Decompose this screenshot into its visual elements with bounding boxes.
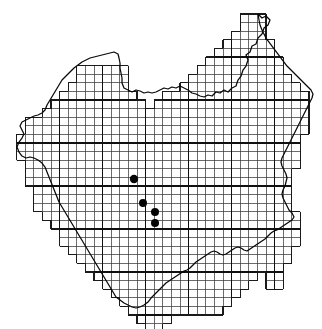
occurrence-dot	[130, 175, 138, 183]
map-background	[0, 0, 322, 329]
occurrence-dot	[139, 199, 147, 207]
distribution-map-figure: Distribution map	[0, 0, 322, 329]
occurrence-dot	[151, 208, 159, 216]
map-canvas	[0, 0, 322, 329]
occurrence-dot	[151, 219, 159, 227]
